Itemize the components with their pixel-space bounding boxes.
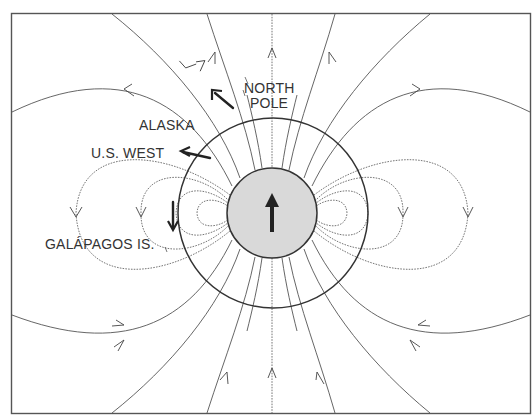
galapagos-arrow-icon xyxy=(168,202,178,230)
alaska-arrow-icon xyxy=(212,90,233,108)
north-pole-label-line2: POLE xyxy=(250,95,288,111)
north-pole-label-line1: NORTH xyxy=(244,80,295,96)
us-west-arrow-icon xyxy=(181,147,210,158)
dipole-field-diagram: NORTH POLE ALASKA U.S. WEST GALÁPAGOS IS… xyxy=(0,0,532,417)
galapagos-label: GALÁPAGOS IS. xyxy=(45,236,155,252)
us-west-label: U.S. WEST xyxy=(91,145,165,161)
alaska-label: ALASKA xyxy=(139,117,195,133)
